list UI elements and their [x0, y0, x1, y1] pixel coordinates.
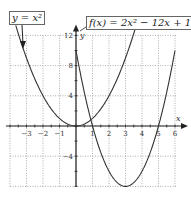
x-tick-label: 6	[173, 130, 178, 138]
x-tick-label: −1	[54, 130, 64, 138]
x-tick-label: 3	[123, 130, 127, 138]
x-axis-label: x	[176, 114, 181, 123]
x-tick-label: −3	[21, 130, 31, 138]
x-axis-arrow-icon	[181, 123, 188, 129]
x-tick-label: −2	[38, 130, 48, 138]
y-tick-label: 12	[64, 32, 73, 40]
chart: −3−2−11234561284−4xy y = x² f(x) = 2x² −…	[0, 0, 191, 199]
y-axis-arrow-icon	[73, 24, 79, 31]
y-tick-label: 8	[69, 62, 73, 70]
label-f-of-x: f(x) = 2x² − 12x + 10	[86, 16, 191, 30]
x-tick-label: 4	[140, 130, 145, 138]
pointer-arrow-icon	[20, 41, 26, 49]
x-tick-label: 2	[107, 130, 111, 138]
y-tick-label: −4	[63, 153, 74, 161]
y-axis-label: y	[79, 31, 85, 40]
label-y-equals-x-squared: y = x²	[9, 11, 45, 25]
y-tick-label: 4	[69, 92, 74, 100]
